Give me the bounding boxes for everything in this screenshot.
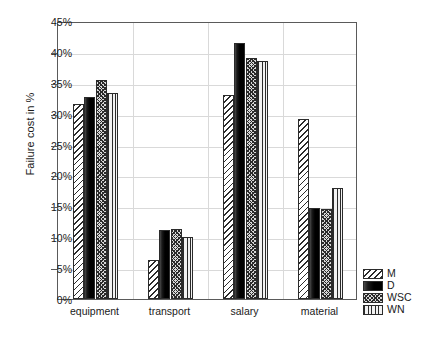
y-tick-label: 10% — [12, 232, 72, 244]
gridline-vertical — [283, 23, 284, 299]
y-tick-mark — [51, 269, 57, 270]
y-tick-mark — [51, 238, 57, 239]
bar-material-D — [309, 208, 320, 299]
bar-salary-WN — [257, 61, 268, 299]
bar-salary-D — [234, 43, 245, 299]
bar-chart: Failure cost in % 0%5%10%15%20%25%30%35%… — [0, 0, 435, 338]
legend-swatch-M — [363, 269, 383, 279]
legend-swatch-WSC — [363, 293, 383, 303]
plot-inner — [58, 23, 356, 299]
y-tick-label: 35% — [12, 78, 72, 90]
gridline-horizontal — [58, 54, 356, 55]
y-tick-mark — [51, 115, 57, 116]
bar-salary-WSC — [246, 58, 257, 299]
legend-swatch-D — [363, 281, 383, 291]
legend-swatch-WN — [363, 305, 383, 315]
x-tick-label-transport: transport — [149, 305, 190, 317]
bar-equipment-WSC — [96, 80, 107, 299]
y-tick-label: 45% — [12, 16, 72, 28]
plot-area — [57, 22, 357, 300]
bar-material-WSC — [321, 209, 332, 299]
legend-item-D: D — [363, 280, 412, 291]
legend-label-WN: WN — [387, 304, 405, 315]
y-tick-mark — [51, 207, 57, 208]
bar-material-WN — [332, 188, 343, 299]
bar-equipment-M — [73, 104, 84, 299]
gridline-vertical — [133, 23, 134, 299]
bar-material-M — [298, 119, 309, 299]
y-tick-mark — [51, 146, 57, 147]
legend-label-WSC: WSC — [387, 292, 412, 303]
chart-legend: MDWSCWN — [363, 268, 412, 315]
x-tick-label-equipment: equipment — [70, 305, 119, 317]
y-tick-label: 25% — [12, 140, 72, 152]
y-tick-label: 5% — [12, 263, 72, 275]
y-tick-label: 15% — [12, 201, 72, 213]
bar-transport-WSC — [171, 229, 182, 299]
legend-item-WN: WN — [363, 304, 412, 315]
x-tick-label-salary: salary — [230, 305, 258, 317]
legend-label-M: M — [387, 268, 396, 279]
y-tick-mark — [51, 84, 57, 85]
y-tick-label: 40% — [12, 47, 72, 59]
y-tick-label: 20% — [12, 170, 72, 182]
x-tick-label-material: material — [301, 305, 338, 317]
legend-label-D: D — [387, 280, 395, 291]
y-tick-mark — [51, 176, 57, 177]
bar-transport-D — [159, 230, 170, 299]
bar-salary-M — [223, 95, 234, 299]
bar-transport-M — [148, 260, 159, 299]
y-tick-label: 0% — [12, 294, 72, 306]
y-tick-mark — [51, 53, 57, 54]
y-tick-label: 30% — [12, 109, 72, 121]
bar-equipment-D — [84, 97, 95, 299]
legend-item-WSC: WSC — [363, 292, 412, 303]
bar-equipment-WN — [107, 93, 118, 299]
gridline-vertical — [208, 23, 209, 299]
legend-item-M: M — [363, 268, 412, 279]
bar-transport-WN — [182, 237, 193, 299]
